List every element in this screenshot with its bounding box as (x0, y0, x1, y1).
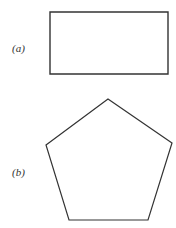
label-a: (a) (12, 42, 25, 55)
rectangle-shape (50, 12, 168, 74)
pentagon-shape (46, 99, 172, 220)
label-b: (b) (12, 166, 25, 179)
shapes-diagram: (a) (b) (0, 0, 176, 228)
